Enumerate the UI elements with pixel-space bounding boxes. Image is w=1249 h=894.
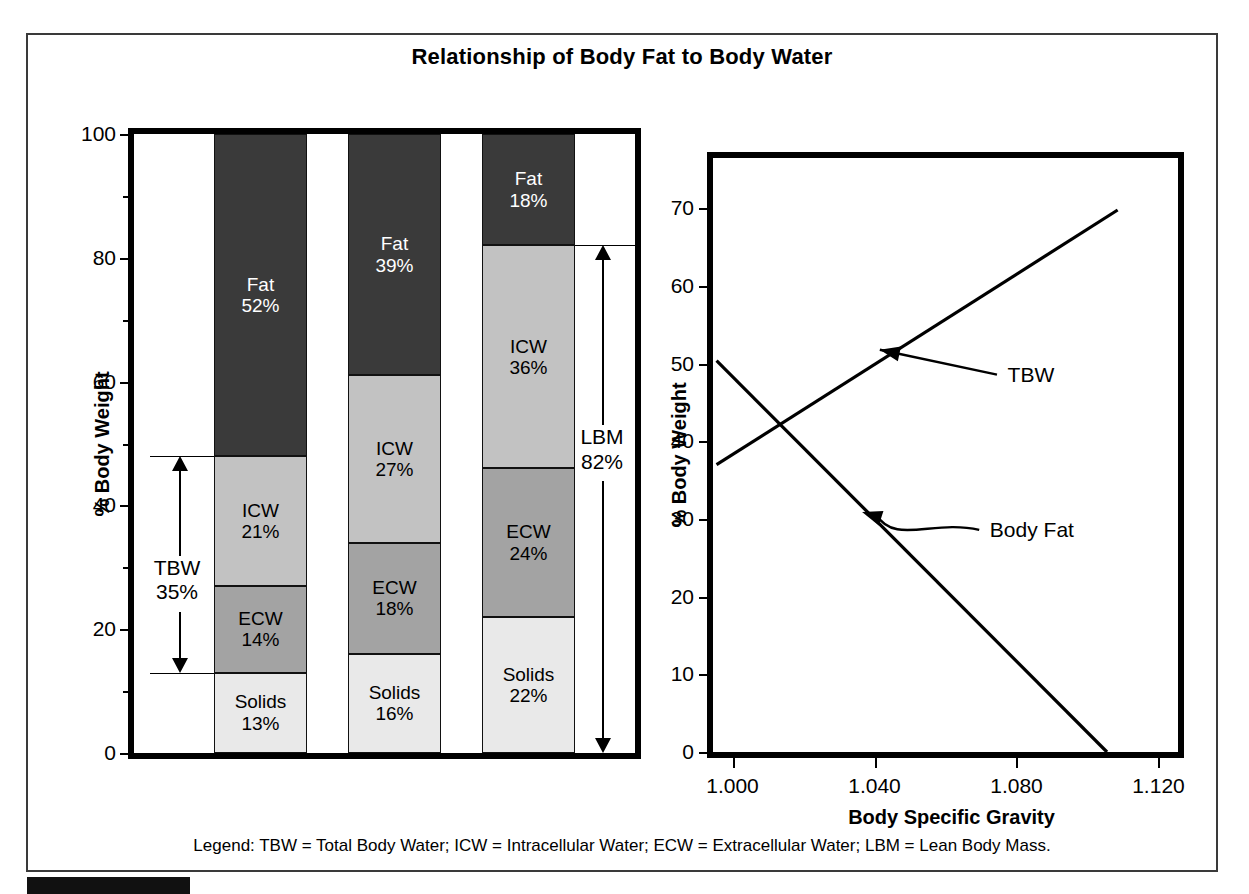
bar-segment-label: Solids [503,664,555,685]
lbm-shaft-upper [602,259,604,425]
bar-segment-value: 24% [509,543,547,564]
bar-segment-value: 18% [375,598,413,619]
left-y-tick-label-20: 20 [93,617,116,641]
right-y-tick-label-30: 30 [671,507,694,531]
bar-segment-icw: ICW21% [214,456,307,586]
right-x-tick-1.040 [875,752,877,768]
tbw-arrowhead-up [172,456,188,471]
left-y-tick-60 [120,382,134,384]
tbw-shaft-upper [179,470,181,556]
left-stacked-bar-chart: % Body Weight 020406080100 Fat52%ICW21%E… [128,128,641,759]
lbm-label-value: 82% [580,450,623,474]
left-y-minor-tick-70 [123,320,134,322]
right-x-tick-1.080 [1016,752,1018,768]
bar-segment-value: 52% [241,295,279,316]
bar-segment-label: ECW [372,577,416,598]
figure-page: Relationship of Body Fat to Body Water %… [0,0,1249,894]
bar-segment-label: ICW [510,336,547,357]
tbw-shaft-lower [179,612,181,659]
left-y-tick-label-100: 100 [81,122,116,146]
bar-segment-icw: ICW27% [348,375,441,542]
tbw-guide-line [150,673,214,674]
right-y-tick-label-60: 60 [671,274,694,298]
right-y-tick-label-20: 20 [671,585,694,609]
lbm-arrowhead-down [595,738,611,753]
right-y-tick-20 [699,597,713,599]
left-y-minor-tick-90 [123,196,134,198]
right-y-tick-40 [699,441,713,443]
bar-segment-fat: Fat18% [482,134,575,245]
tbw-arrowhead-down [172,658,188,673]
right-y-tick-50 [699,364,713,366]
right-y-tick-30 [699,519,713,521]
stacked-bar-1: Fat52%ICW21%ECW14%Solids13% [214,134,307,753]
bar-segment-label: Solids [369,682,421,703]
bar-segment-label: ICW [242,500,279,521]
left-y-tick-40 [120,505,134,507]
lbm-label-text: LBM [580,425,623,449]
bar-segment-value: 21% [241,521,279,542]
bar-segment-value: 18% [509,190,547,211]
right-y-tick-label-0: 0 [682,740,694,764]
bar-segment-ecw: ECW24% [482,468,575,617]
bar-segment-fat: Fat39% [348,134,441,375]
right-y-tick-label-50: 50 [671,352,694,376]
bar-segment-label: ECW [506,521,550,542]
left-y-tick-20 [120,629,134,631]
series-line-tbw [717,210,1118,465]
right-y-tick-label-10: 10 [671,662,694,686]
right-y-tick-0 [699,752,713,754]
bar-segment-fat: Fat52% [214,134,307,456]
stacked-bar-3: Fat18%ICW36%ECW24%Solids22% [482,134,575,753]
body-fat-annotation-leader [876,514,979,530]
left-y-tick-label-80: 80 [93,246,116,270]
bar-segment-label: Fat [247,274,274,295]
bar-segment-solids: Solids22% [482,617,575,753]
left-y-tick-label-0: 0 [104,741,116,765]
bar-segment-solids: Solids13% [214,673,307,753]
right-y-tick-60 [699,286,713,288]
bar-segment-label: ECW [238,608,282,629]
bar-segment-value: 16% [375,703,413,724]
right-x-tick-label-1.120: 1.120 [1132,774,1185,798]
left-y-tick-80 [120,258,134,260]
bar-segment-value: 27% [375,459,413,480]
right-x-tick-1.120 [1158,752,1160,768]
tbw-label-text: TBW [154,556,201,580]
bar-segment-label: Solids [235,691,287,712]
left-y-tick-label-40: 40 [93,493,116,517]
right-y-tick-label-40: 40 [671,429,694,453]
bar-segment-label: Fat [381,233,408,254]
left-y-minor-tick-50 [123,444,134,446]
right-series-lines [713,158,1178,752]
bar-segment-value: 13% [241,713,279,734]
left-y-tick-0 [120,753,134,755]
bar-segment-value: 14% [241,629,279,650]
bar-segment-ecw: ECW18% [348,543,441,654]
left-y-minor-tick-10 [123,691,134,693]
right-x-axis-title: Body Specific Gravity [713,806,1190,829]
left-y-minor-tick-30 [123,567,134,569]
lbm-arrowhead-up [595,245,611,260]
right-y-tick-70 [699,208,713,210]
right-y-axis-title: % Body Weight [668,382,691,527]
right-y-tick-10 [699,674,713,676]
right-x-tick-1.000 [733,752,735,768]
left-y-tick-label-60: 60 [93,370,116,394]
bar-segment-label: Fat [515,168,542,189]
right-y-tick-label-70: 70 [671,196,694,220]
bar-segment-value: 36% [509,357,547,378]
right-line-chart: % Body Weight Body Specific Gravity 0102… [707,152,1184,758]
page-title: Relationship of Body Fat to Body Water [26,44,1218,70]
bar-segment-solids: Solids16% [348,654,441,753]
left-y-tick-100 [120,134,134,136]
bar-segment-value: 22% [509,685,547,706]
bar-segment-ecw: ECW14% [214,586,307,673]
series-line-body-fat [717,361,1107,752]
scan-artifact-bar [27,877,190,894]
stacked-bar-2: Fat39%ICW27%ECW18%Solids16% [348,134,441,753]
right-x-tick-label-1.000: 1.000 [706,774,759,798]
body-fat-series-label: Body Fat [990,518,1074,542]
right-plot-area: % Body Weight Body Specific Gravity 0102… [713,158,1178,752]
bar-segment-value: 39% [375,255,413,276]
